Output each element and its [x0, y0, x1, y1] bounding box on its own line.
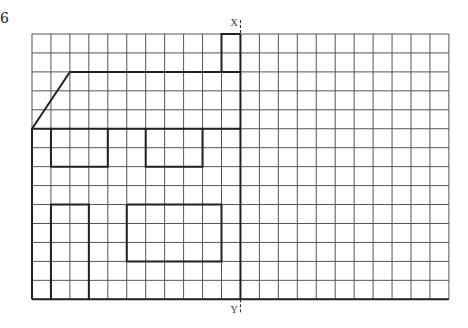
shape-edge — [127, 205, 222, 262]
axis-label-y: Y — [230, 304, 237, 315]
reflection-grid-diagram: X Y — [0, 0, 468, 328]
axis-label-x: X — [230, 17, 238, 28]
